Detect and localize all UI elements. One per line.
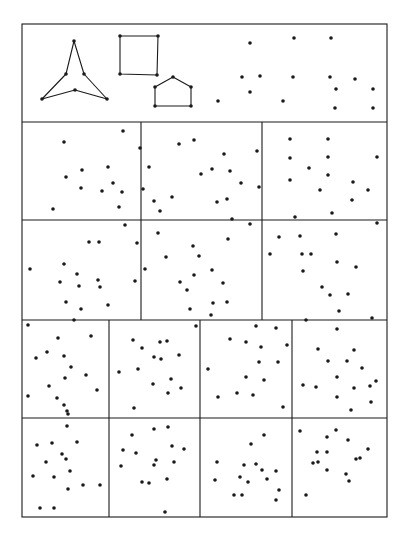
dot <box>330 211 334 215</box>
dot <box>65 409 69 413</box>
dot <box>123 223 127 227</box>
dot <box>228 337 232 341</box>
dot <box>374 379 378 383</box>
dot <box>320 285 324 289</box>
dot <box>192 273 196 277</box>
dot <box>62 354 66 358</box>
vertex-dot <box>155 73 159 77</box>
stimulus-panel-r3c1 <box>28 240 139 322</box>
dot <box>238 475 242 479</box>
dot <box>344 472 348 476</box>
vertex-dot <box>189 104 193 108</box>
dot <box>307 166 311 170</box>
dot <box>262 433 266 437</box>
dot <box>288 156 292 160</box>
dot <box>163 510 167 514</box>
dot <box>95 388 99 392</box>
dot <box>133 279 137 283</box>
dot <box>63 376 67 380</box>
example-panel <box>40 34 375 110</box>
dot <box>285 343 289 347</box>
dot <box>265 477 269 481</box>
dot <box>301 383 305 387</box>
dot <box>281 405 285 409</box>
stimulus-panel-r2c2 <box>147 138 261 226</box>
dot <box>120 190 124 194</box>
dot <box>326 359 330 363</box>
dot <box>316 460 320 464</box>
dot <box>152 463 156 467</box>
dot <box>257 360 261 364</box>
dot <box>79 307 83 311</box>
dot <box>121 129 125 133</box>
dot <box>276 360 280 364</box>
dot <box>62 403 66 407</box>
dot <box>141 187 145 191</box>
dot <box>69 365 73 369</box>
dot <box>226 237 230 241</box>
dot <box>50 441 54 445</box>
dot <box>84 373 88 377</box>
dot <box>51 207 55 211</box>
dot <box>335 375 339 379</box>
stimulus-panels <box>26 129 379 514</box>
dot <box>135 241 139 245</box>
dot <box>215 200 219 204</box>
dot <box>170 444 174 448</box>
dot <box>248 222 252 226</box>
dot <box>350 198 354 202</box>
vertex-dot <box>82 72 86 76</box>
dot <box>248 90 252 94</box>
dot <box>79 186 83 190</box>
dot <box>197 254 201 258</box>
dot <box>106 165 110 169</box>
dot <box>147 481 151 485</box>
dot <box>300 252 304 256</box>
dot <box>55 396 59 400</box>
vertex-dot <box>40 97 44 101</box>
dot <box>225 197 229 201</box>
dot <box>347 479 351 483</box>
dot <box>254 462 258 466</box>
stimulus-panel-r4c4 <box>301 327 378 412</box>
dot <box>178 280 182 284</box>
dot <box>352 386 356 390</box>
dot <box>328 293 332 297</box>
dot <box>52 475 56 479</box>
shape-square <box>118 34 160 77</box>
stimulus-panel-r2c1 <box>51 129 162 227</box>
dot <box>89 334 93 338</box>
vertex-dot <box>118 72 122 76</box>
dot <box>117 370 121 374</box>
dot <box>262 378 266 382</box>
dot <box>165 477 169 481</box>
dot <box>96 278 100 282</box>
dot <box>140 480 144 484</box>
dot <box>358 456 362 460</box>
dot <box>65 424 69 428</box>
dot <box>106 303 110 307</box>
dot <box>194 324 198 328</box>
dot <box>371 106 375 110</box>
dot <box>216 395 220 399</box>
dot <box>288 178 292 182</box>
dot <box>326 173 330 177</box>
stimulus-panel-r2c3 <box>288 137 379 225</box>
dot <box>166 425 170 429</box>
vertex-dot <box>73 88 77 92</box>
dot <box>143 267 147 271</box>
stimulus-panel-r4c1 <box>26 323 99 416</box>
dot <box>179 386 183 390</box>
dot <box>58 280 62 284</box>
dot <box>268 252 272 256</box>
dot <box>111 181 115 185</box>
stimulus-panel-r5c2 <box>119 425 186 514</box>
dot <box>292 36 296 40</box>
dot <box>185 288 189 292</box>
dot <box>44 460 48 464</box>
dot <box>169 377 173 381</box>
dot <box>215 460 219 464</box>
dot <box>152 355 156 359</box>
dot <box>337 309 341 313</box>
dot <box>274 326 278 330</box>
